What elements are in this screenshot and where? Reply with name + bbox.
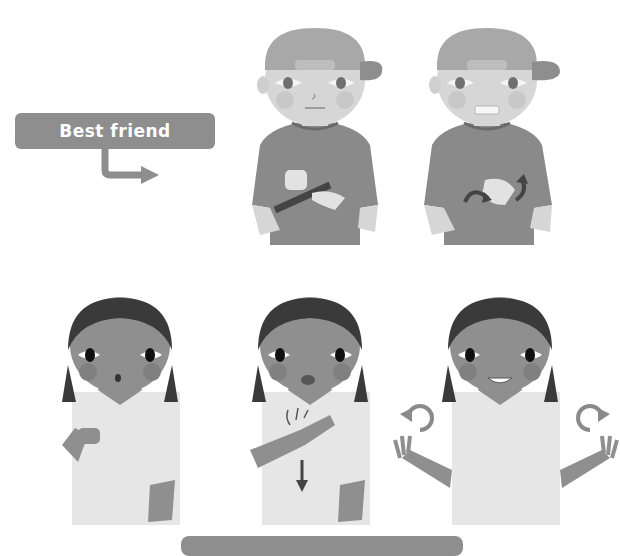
boy-figure-step-2 xyxy=(410,20,580,245)
bottom-label-bar xyxy=(181,536,463,556)
girl-figure-step-2 xyxy=(230,290,390,525)
pointer-arrow-icon xyxy=(95,148,165,188)
smile-teeth xyxy=(475,106,499,114)
boy-head xyxy=(429,28,560,126)
girl-figure-step-3 xyxy=(390,290,620,525)
girl-figure-step-1 xyxy=(40,290,200,525)
right-arm xyxy=(560,450,610,488)
left-arm xyxy=(402,450,452,488)
sign-title-label: Best friend xyxy=(15,113,215,149)
girl-blouse xyxy=(452,392,560,525)
boy-figure-step-1 xyxy=(230,20,400,245)
boy-head xyxy=(257,28,382,126)
sign-title-text: Best friend xyxy=(59,121,171,141)
fist-hand xyxy=(78,428,100,444)
